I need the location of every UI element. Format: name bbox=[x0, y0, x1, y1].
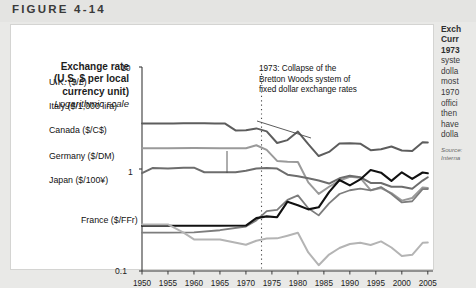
series-label-4: Japan ($/100¥) bbox=[49, 175, 108, 185]
y-tick-label-1: 1 bbox=[128, 167, 133, 177]
figure-number-label: FIGURE 4-14 bbox=[12, 3, 106, 15]
y-axis-title-line3: currency unit) bbox=[25, 86, 129, 98]
series-line-2 bbox=[142, 168, 428, 189]
side-body-line: then bbox=[441, 109, 476, 120]
x-tick-label: 2000 bbox=[393, 279, 411, 288]
chart-card: Exchange rate (U.S. $ per local currency… bbox=[10, 24, 434, 270]
side-text-panel: Exch Curr 1973 systedollamost1970officit… bbox=[441, 24, 476, 270]
y-tick-label-10: 10 bbox=[121, 63, 131, 73]
side-title-line3: 1973 bbox=[441, 45, 476, 55]
side-body-line: dolla bbox=[441, 67, 476, 78]
side-title-line2: Curr bbox=[441, 34, 476, 44]
side-body-line: syste bbox=[441, 56, 476, 67]
series-label-5: France ($/FFr) bbox=[81, 215, 138, 225]
side-title-line1: Exch bbox=[441, 24, 476, 34]
x-tick-label: 1970 bbox=[237, 279, 255, 288]
y-tick-label-0.1: 0.1 bbox=[115, 266, 127, 276]
series-label-1: Italy ($/1,000 lira) bbox=[49, 101, 117, 111]
x-tick-label: 1950 bbox=[133, 279, 151, 288]
side-body-line: dolla bbox=[441, 130, 476, 141]
side-source-line: Interna bbox=[441, 154, 476, 162]
x-tick-label: 1975 bbox=[263, 279, 281, 288]
series-label-3: Germany ($/DM) bbox=[49, 151, 115, 161]
side-body-line: offici bbox=[441, 99, 476, 110]
x-tick-label: 1960 bbox=[185, 279, 203, 288]
x-tick-label: 1995 bbox=[367, 279, 385, 288]
germany-leader-line bbox=[257, 121, 311, 138]
series-label-0: U.K. ($/£) bbox=[49, 77, 87, 87]
figure-header-band: FIGURE 4-14 bbox=[0, 0, 476, 22]
x-tick-label: 1985 bbox=[315, 279, 333, 288]
plot-area bbox=[139, 61, 435, 277]
side-source-line: Source: bbox=[441, 146, 476, 154]
x-tick-label: 1990 bbox=[341, 279, 359, 288]
series-line-5 bbox=[142, 224, 428, 265]
x-tick-label: 1955 bbox=[159, 279, 177, 288]
series-line-4 bbox=[142, 170, 428, 226]
series-label-2: Canada ($/C$) bbox=[49, 125, 107, 135]
x-tick-label: 1965 bbox=[211, 279, 229, 288]
side-source-note: Source:Interna bbox=[441, 146, 476, 161]
y-axis-title-line1: Exchange rate bbox=[25, 61, 129, 73]
side-body-line: 1970 bbox=[441, 88, 476, 99]
side-body-line: have bbox=[441, 120, 476, 131]
side-body-line: most bbox=[441, 77, 476, 88]
side-body-text: systedollamost1970officithenhavedolla bbox=[441, 56, 476, 141]
x-tick-label: 2005 bbox=[419, 279, 437, 288]
chart-svg bbox=[139, 61, 435, 277]
x-tick-label: 1980 bbox=[289, 279, 307, 288]
series-line-0 bbox=[142, 123, 428, 156]
